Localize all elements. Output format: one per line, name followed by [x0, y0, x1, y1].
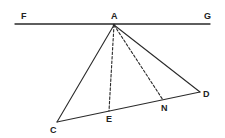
segments: [15, 24, 210, 122]
label-D: D: [203, 89, 210, 99]
label-N: N: [161, 103, 168, 113]
segment-AC: [57, 25, 114, 122]
label-C: C: [50, 125, 57, 135]
segment-AD: [114, 25, 200, 92]
point-labels: F A G C E N D: [21, 11, 211, 135]
label-G: G: [204, 11, 211, 21]
geometry-diagram: F A G C E N D: [0, 0, 225, 138]
label-E: E: [106, 114, 112, 124]
segment-CD: [57, 92, 200, 122]
label-A: A: [111, 11, 118, 21]
label-F: F: [21, 11, 27, 21]
vertex-a-dot: [113, 24, 116, 27]
segment-AE: [109, 25, 114, 111]
segment-AN: [114, 25, 163, 100]
